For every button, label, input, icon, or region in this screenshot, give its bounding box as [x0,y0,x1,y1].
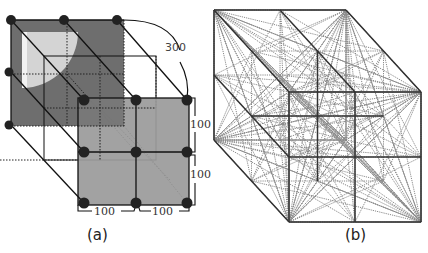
node [6,15,16,25]
label-horizontal-left: 100 [94,205,115,218]
node [79,147,90,158]
node [79,198,90,209]
label-300: 300 [165,41,186,54]
label-vertical-top: 100 [190,118,211,131]
node [59,15,69,25]
node [131,147,142,158]
quadrant-edge-light [22,32,27,88]
node [182,147,193,158]
node [5,121,14,130]
node [131,95,142,106]
panel-b-cube [214,10,421,222]
node [79,95,90,106]
node [112,15,122,25]
node [182,95,193,106]
node [131,198,142,209]
label-horizontal-right: 100 [152,205,173,218]
figure-canvas: 300 100 100 100 100 [0,0,428,253]
node [5,68,14,77]
label-vertical-bottom: 100 [190,168,211,181]
node [182,198,193,209]
caption-a: (a) [87,226,108,244]
panel-a-cube: 300 100 100 100 100 [0,15,211,218]
caption-b: (b) [345,226,366,244]
